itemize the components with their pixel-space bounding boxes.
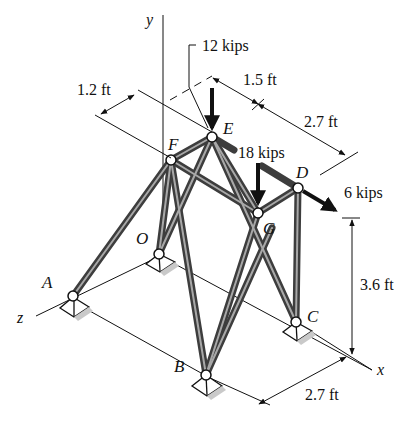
node-label-E: E xyxy=(223,120,233,137)
joint-D xyxy=(293,183,303,193)
joint-A xyxy=(68,291,78,301)
node-label-O: O xyxy=(136,230,148,247)
x-axis-label: x xyxy=(377,362,384,378)
node-label-D: D xyxy=(296,164,308,181)
truss-diagram: y z x A B C D E F G O 12 kips 18 kips 6 … xyxy=(0,0,414,424)
node-label-C: C xyxy=(307,308,318,325)
load-arrow-D xyxy=(303,191,335,210)
base-line-AB xyxy=(88,310,210,378)
load-label-E: 12 kips xyxy=(202,38,249,54)
truss-drawing xyxy=(0,0,414,424)
joint-E xyxy=(207,132,217,142)
dim-label-1.5ft: 1.5 ft xyxy=(243,72,277,88)
node-label-A: A xyxy=(42,274,52,291)
joint-O xyxy=(154,249,164,259)
y-axis-label: y xyxy=(146,12,153,28)
support-A xyxy=(60,297,93,321)
load-label-G: 18 kips xyxy=(238,145,285,161)
joint-C xyxy=(291,317,301,327)
dim-label-3.6ft: 3.6 ft xyxy=(360,277,394,293)
dim-label-1.2ft: 1.2 ft xyxy=(77,82,111,98)
load-label-D: 6 kips xyxy=(344,185,383,201)
joint-G xyxy=(253,208,263,218)
truss-members xyxy=(73,137,298,375)
dim-label-2.7ft-top: 2.7 ft xyxy=(304,114,338,130)
dim-label-2.7ft-base: 2.7 ft xyxy=(305,387,339,403)
joint-B xyxy=(201,370,211,380)
node-label-F: F xyxy=(168,136,178,153)
node-label-B: B xyxy=(174,358,184,375)
node-label-G: G xyxy=(263,220,275,237)
z-axis-label: z xyxy=(17,310,23,326)
